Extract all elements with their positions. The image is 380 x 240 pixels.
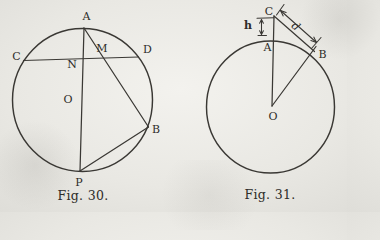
fig31-caption: Fig. 31. bbox=[245, 187, 296, 202]
fig31-point-label-C: C bbox=[265, 5, 273, 18]
fig31-point-label-O: O bbox=[268, 110, 277, 123]
fig30-point-label-D: D bbox=[143, 43, 152, 56]
fig31-dimension-h: h bbox=[244, 18, 274, 36]
fig31-point-label-B: B bbox=[318, 48, 326, 61]
geometry-figures-canvas: A C D M N O B P Fig. 30. d bbox=[0, 0, 347, 212]
fig30-point-label-M: M bbox=[96, 42, 107, 55]
fig30-chord-CD bbox=[24, 57, 139, 61]
fig30-point-label-O: O bbox=[63, 93, 72, 106]
fig31-dim-label-h: h bbox=[244, 19, 252, 32]
fig30-caption: Fig. 30. bbox=[58, 188, 109, 203]
fig31-d-tick-at-C bbox=[277, 5, 285, 16]
fig31-point-label-A: A bbox=[263, 41, 273, 54]
fig30-point-label-N: N bbox=[67, 58, 77, 71]
fig30-point-label-A: A bbox=[82, 10, 92, 23]
fig30-point-label-C: C bbox=[12, 50, 20, 63]
figure-31: d h C A B O Fig. 31. bbox=[207, 5, 335, 203]
fig31-circle bbox=[207, 41, 335, 173]
figure-30: A C D M N O B P Fig. 30. bbox=[12, 10, 160, 203]
fig31-line-OC bbox=[272, 16, 274, 106]
fig30-diameter-AP bbox=[80, 28, 84, 171]
fig30-line-AB bbox=[84, 28, 149, 127]
fig31-line-OB bbox=[272, 47, 316, 107]
fig30-point-label-B: B bbox=[152, 123, 160, 136]
